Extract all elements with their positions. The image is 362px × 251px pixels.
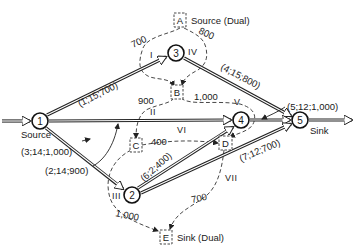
node-4: 4	[233, 112, 249, 128]
svg-text:D: D	[222, 138, 229, 149]
dual-roman-I: I	[150, 50, 153, 60]
edge-label-2-5: (7;12;700)	[237, 137, 281, 164]
svg-text:3: 3	[173, 48, 179, 59]
svg-text:B: B	[174, 87, 180, 98]
node-5: 5	[292, 112, 308, 128]
dual-roman-IV: IV	[188, 47, 198, 57]
edge-label-3-5: (4;15;800)	[219, 61, 262, 91]
dual-roman-VI: VI	[177, 125, 187, 135]
sink-caption: Sink	[310, 125, 329, 136]
dual-node-D: D	[219, 136, 232, 150]
dual-value-V: 1,000	[194, 91, 218, 102]
edge-label-4-5: (5;12;1,000)	[287, 101, 338, 112]
dual-value-VII: 700	[190, 191, 208, 205]
network-diagram: 1 2 3 4 5 A B C	[0, 0, 362, 251]
source-caption: Source	[21, 129, 51, 140]
dual-value-II: 900	[138, 95, 154, 106]
svg-text:1: 1	[37, 116, 43, 127]
node-2: 2	[124, 187, 140, 203]
edge-1-2	[46, 128, 123, 189]
edge-label-1-2: (2;14;900)	[45, 165, 88, 176]
sink-dual-caption: Sink (Dual)	[177, 232, 224, 243]
dual-value-III: 1,000	[115, 207, 141, 223]
edge-1-4	[49, 120, 231, 121]
edge-3-5	[184, 58, 291, 116]
edge-label-1-4: (3;14;1,000)	[21, 146, 72, 157]
dual-roman-VII: VII	[225, 173, 238, 183]
svg-text:C: C	[133, 140, 140, 151]
dual-node-A: A	[174, 13, 186, 27]
dual-value-VI: 400	[151, 136, 167, 147]
dual-node-C: C	[130, 138, 142, 152]
dual-node-E: E	[160, 230, 172, 244]
svg-text:E: E	[163, 232, 169, 243]
svg-text:4: 4	[238, 115, 244, 126]
dual-node-B: B	[171, 85, 183, 99]
dual-value-IV: 800	[197, 25, 216, 42]
dual-roman-III: III	[112, 191, 121, 201]
node-1: 1	[32, 113, 48, 129]
dual-roman-II: II	[150, 107, 156, 117]
dual-roman-V: V	[234, 97, 241, 107]
svg-text:2: 2	[129, 190, 135, 201]
svg-text:A: A	[177, 15, 184, 26]
source-dual-caption: Source (Dual)	[191, 15, 250, 26]
svg-text:5: 5	[297, 115, 303, 126]
dual-value-I: 700	[129, 33, 148, 50]
node-3: 3	[168, 45, 184, 61]
edge-label-1-3: (1;15;700)	[76, 79, 120, 108]
